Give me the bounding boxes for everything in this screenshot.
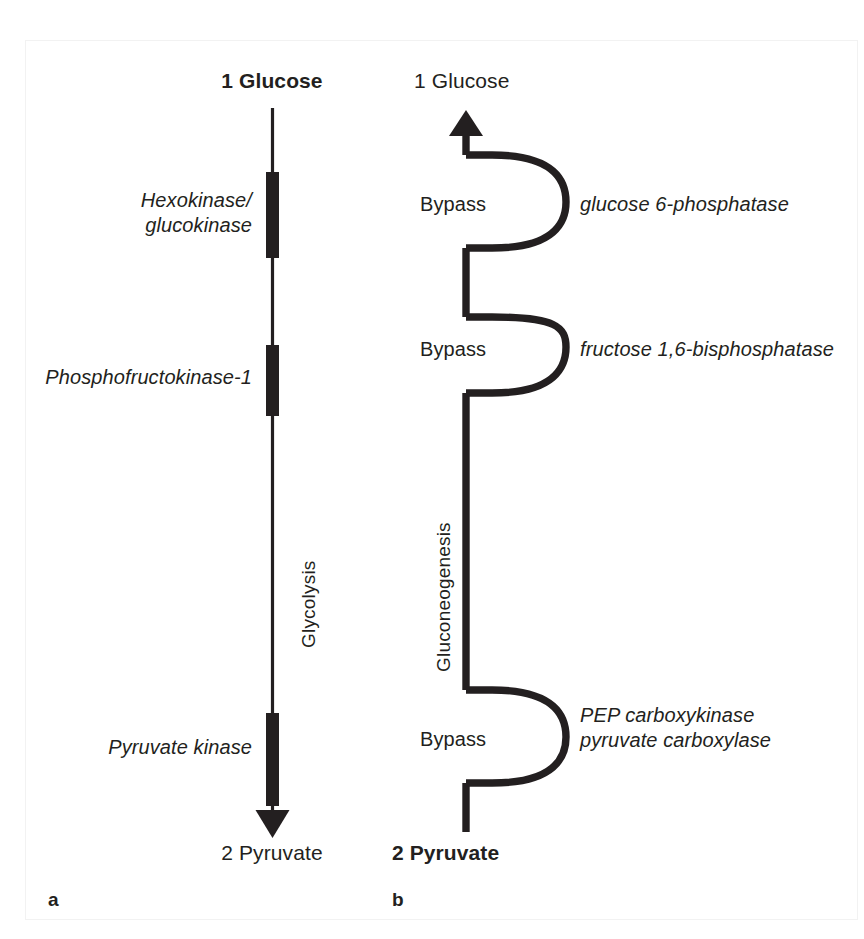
glycolysis-step-block-pyruvate-kinase bbox=[266, 713, 279, 806]
panel-b-enzyme-glucose-6-phosphatase: glucose 6-phosphatase bbox=[580, 192, 789, 217]
panel-b-pathway-label: Gluconeogenesis bbox=[432, 522, 456, 672]
panel-a-pathway-label: Glycolysis bbox=[297, 560, 321, 648]
panel-a-enzyme-hexokinase: Hexokinase/ glucokinase bbox=[30, 188, 252, 238]
panel-b-top-compound: 1 Glucose bbox=[414, 68, 509, 94]
panel-b-enzyme-fructose-1-6-bisphosphatase: fructose 1,6-bisphosphatase bbox=[580, 337, 834, 362]
glycolysis-step-block-hexokinase bbox=[266, 172, 279, 258]
pathway-graphics bbox=[0, 0, 864, 939]
figure-canvas: 1 Glucose Hexokinase/ glucokinase Phosph… bbox=[0, 0, 864, 939]
glycolysis-arrowhead bbox=[256, 810, 290, 838]
panel-b-bypass-label-1: Bypass bbox=[420, 192, 486, 217]
panel-b-letter: b bbox=[392, 888, 404, 912]
panel-a-enzyme-pyruvate-kinase: Pyruvate kinase bbox=[30, 735, 252, 760]
panel-b-bypass-label-2: Bypass bbox=[420, 337, 486, 362]
panel-a-top-compound: 1 Glucose bbox=[172, 68, 372, 94]
panel-b-enzyme-pep-carboxykinase: PEP carboxykinase pyruvate carboxylase bbox=[580, 703, 771, 753]
panel-b-bypass-label-3: Bypass bbox=[420, 727, 486, 752]
glycolysis-arrow-group bbox=[256, 108, 290, 838]
gluconeogenesis-arrowhead bbox=[449, 110, 483, 136]
panel-a-letter: a bbox=[48, 888, 59, 912]
panel-b-bottom-compound: 2 Pyruvate bbox=[392, 840, 499, 866]
panel-a-enzyme-pfk1: Phosphofructokinase-1 bbox=[10, 365, 252, 390]
glycolysis-step-block-pfk1 bbox=[266, 345, 279, 416]
panel-a-bottom-compound: 2 Pyruvate bbox=[172, 840, 372, 866]
